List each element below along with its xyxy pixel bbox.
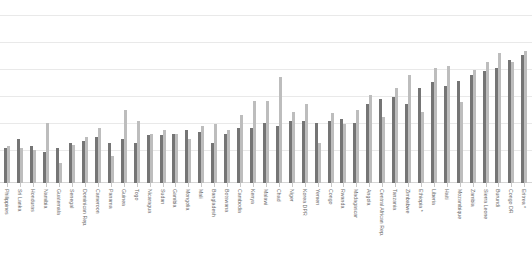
bar — [279, 77, 282, 183]
x-axis-tick: Mali — [195, 183, 208, 276]
x-axis-tick: Nicaragua — [143, 183, 156, 276]
tick-mark — [201, 183, 202, 187]
x-axis-tick-label: Guatemala — [56, 189, 61, 215]
x-axis-tick: Ethiopia * — [415, 183, 428, 276]
tick-mark — [421, 183, 422, 187]
x-axis-tick-label: Korea DPR — [301, 189, 306, 216]
bar — [240, 115, 243, 183]
tick-mark — [473, 183, 474, 187]
tick-mark — [318, 183, 319, 187]
bar — [188, 139, 191, 183]
bar-group — [259, 0, 272, 183]
bar-group — [66, 0, 79, 183]
bar-group — [104, 0, 117, 183]
x-axis-tick: Congo — [324, 183, 337, 276]
tick-mark — [343, 183, 344, 187]
x-axis-tick-label: Chad — [276, 189, 281, 202]
bar-group — [130, 0, 143, 183]
x-axis-tick-label: Zambia — [469, 189, 474, 207]
bar-group — [453, 0, 466, 183]
x-axis-tick-label: Mongolia — [185, 189, 190, 210]
x-axis-tick-label: Panama — [108, 189, 113, 209]
bar — [343, 124, 346, 183]
bar — [460, 102, 463, 183]
x-axis-tick: Namibia — [40, 183, 53, 276]
x-axis-tick: Sierra Leone — [479, 183, 492, 276]
x-axis-tick-label: Ethiopia * — [418, 189, 423, 212]
x-axis-tick-label: Niger — [289, 189, 294, 202]
bar — [20, 148, 23, 183]
x-axis-tick: Botswana — [221, 183, 234, 276]
x-axis-tick-label: Rwanda — [340, 189, 345, 208]
x-axis-tick: Korea DPR — [298, 183, 311, 276]
bar-group — [169, 0, 182, 183]
x-axis-tick-label: Yemen — [314, 189, 319, 205]
x-axis-tick: Angola — [363, 183, 376, 276]
x-axis-tick: Sudan — [156, 183, 169, 276]
tick-mark — [124, 183, 125, 187]
x-axis-tick: Sri Lanka — [14, 183, 27, 276]
bar-group — [440, 0, 453, 183]
x-axis-tick: Guinea — [117, 183, 130, 276]
bar-group — [298, 0, 311, 183]
x-axis-tick-label: Angola — [366, 189, 371, 205]
tick-mark — [305, 183, 306, 187]
tick-mark — [20, 183, 21, 187]
bar — [369, 95, 372, 183]
tick-mark — [214, 183, 215, 187]
x-axis-tick-label: Congo — [327, 189, 332, 205]
x-axis-tick: Kenya — [247, 183, 260, 276]
bar-group — [1, 0, 14, 183]
bar-group — [402, 0, 415, 183]
x-axis-tick: Guatemala — [53, 183, 66, 276]
bar-group — [492, 0, 505, 183]
x-axis-tick-label: Togo — [133, 189, 138, 200]
x-axis-tick: Zambia — [466, 183, 479, 276]
x-axis-tick-label: Cambodia — [237, 189, 242, 213]
bar — [111, 156, 114, 183]
bar-group — [479, 0, 492, 183]
x-axis-tick: Cameroon — [91, 183, 104, 276]
x-axis-tick-label: Honduras — [30, 189, 35, 212]
x-axis-tick: Chad — [272, 183, 285, 276]
bar-chart: PhilippinesSri LankaHondurasNamibiaGuate… — [0, 0, 532, 276]
x-axis-tick: Congo DR — [505, 183, 518, 276]
x-axis-tick: Senegal — [66, 183, 79, 276]
x-axis-tick-label: Guinea — [121, 189, 126, 206]
bar — [72, 145, 75, 183]
bar — [85, 137, 88, 183]
bar — [511, 62, 514, 183]
x-axis-tick-label: Zimbabwe — [405, 189, 410, 213]
bar — [124, 110, 127, 183]
tick-mark — [163, 183, 164, 187]
x-axis-tick-label: Bangladesh — [211, 189, 216, 217]
bar — [227, 130, 230, 183]
bar — [98, 128, 101, 183]
bar-group — [324, 0, 337, 183]
tick-mark — [72, 183, 73, 187]
bar — [356, 110, 359, 183]
x-axis-tick-label: Philippines — [4, 189, 9, 215]
bar-group — [221, 0, 234, 183]
bar — [201, 126, 204, 183]
tick-mark — [408, 183, 409, 187]
tick-mark — [356, 183, 357, 187]
bar-series-container — [0, 0, 532, 183]
tick-mark — [369, 183, 370, 187]
x-axis-tick: Haiti — [440, 183, 453, 276]
bar — [447, 66, 450, 183]
x-axis-tick: Gambia — [169, 183, 182, 276]
bar-group — [79, 0, 92, 183]
tick-mark — [395, 183, 396, 187]
bar-group — [247, 0, 260, 183]
x-axis-tick-label: Mali — [198, 189, 203, 199]
x-axis-tick-label: Cameroon — [95, 189, 100, 214]
tick-mark — [98, 183, 99, 187]
bar — [498, 53, 501, 183]
tick-mark — [175, 183, 176, 187]
bar — [59, 163, 62, 183]
x-axis-tick-label: Madagascar — [353, 189, 358, 218]
bar — [163, 130, 166, 183]
tick-mark — [59, 183, 60, 187]
x-axis-tick-label: Tanzania — [392, 189, 397, 210]
